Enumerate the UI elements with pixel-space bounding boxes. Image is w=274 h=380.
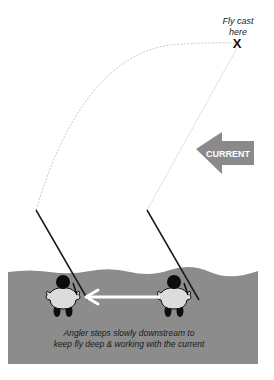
fly-line-swung: [36, 43, 237, 210]
target-label-line1: Fly cast: [222, 16, 254, 26]
current-label: CURRENT: [206, 149, 251, 159]
fly-line-cast: [147, 48, 237, 210]
river-water: [8, 267, 258, 364]
caption-line1: Angler steps slowly downstream to: [63, 328, 195, 338]
target-x-marker: X: [233, 36, 242, 51]
caption-line2: keep fly deep & working with the current: [54, 339, 205, 349]
diagram-canvas: CURRENT Fly cast here X Angler steps slo…: [0, 0, 274, 380]
